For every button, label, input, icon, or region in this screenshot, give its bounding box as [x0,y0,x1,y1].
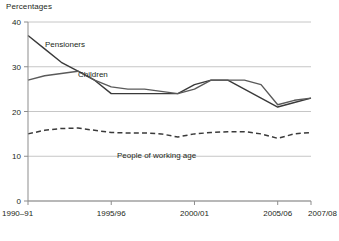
series-line-children [28,71,311,105]
x-tick-label: 2005/06 [263,209,292,218]
y-tick-label: 0 [17,197,22,206]
x-axis-ticks: 1990–911995/962000/012005/062007/08 [2,201,338,218]
data-series [28,35,311,138]
x-tick-label: 1995/96 [97,209,126,218]
x-tick-label: 2000/01 [180,209,209,218]
series-label-pensioners: Pensioners [45,40,85,49]
line-chart-plot: 010203040 1990–911995/962000/012005/0620… [0,0,339,241]
y-tick-label: 40 [12,18,21,27]
y-tick-label: 20 [12,108,21,117]
x-tick-label: 2007/08 [308,209,337,218]
series-label-children: Children [78,70,108,79]
x-tick-label: 1990–91 [2,209,34,218]
chart-container: Percentages 010203040 1990–911995/962000… [0,0,339,241]
y-tick-label: 10 [12,152,21,161]
y-tick-label: 30 [12,63,21,72]
series-label-people-of-working-age: People of working age [117,151,197,160]
series-line-people-of-working-age [28,128,311,138]
y-axis-ticks: 010203040 [12,18,28,206]
series-annotations: PensionersChildrenPeople of working age [45,40,197,160]
